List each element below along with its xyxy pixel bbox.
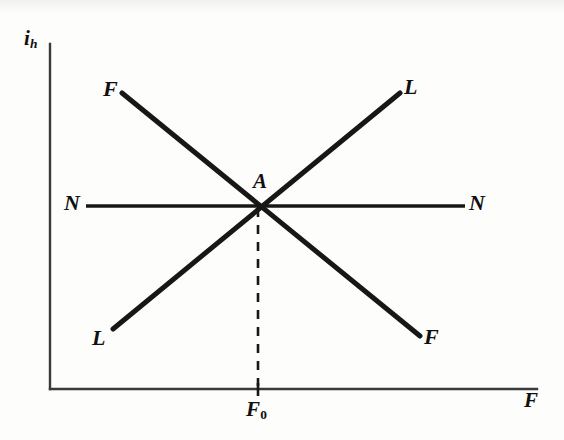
curve-label-n-right: N	[469, 192, 485, 214]
curve-label-l-lower-left: L	[92, 327, 106, 349]
equilibrium-point-label-a: A	[253, 171, 267, 192]
curve-label-l-upper-right: L	[404, 76, 418, 98]
plot-area	[0, 0, 564, 440]
curve-ll	[113, 93, 400, 329]
curve-label-n-left: N	[64, 192, 80, 214]
y-axis-label: ih	[24, 28, 38, 50]
x-axis-label: F	[524, 390, 538, 411]
curve-ff	[122, 93, 420, 336]
y-axis-label-subscript: h	[30, 36, 37, 51]
curve-label-f-upper-left: F	[103, 78, 118, 100]
curve-label-f-lower-right: F	[424, 326, 439, 348]
f0-label-subscript: 0	[260, 407, 267, 422]
f0-label-base: F	[246, 397, 260, 421]
x-tick-label-f0: F0	[246, 399, 267, 421]
diagram-canvas: ih F F0 F F L L N N A	[0, 0, 564, 440]
